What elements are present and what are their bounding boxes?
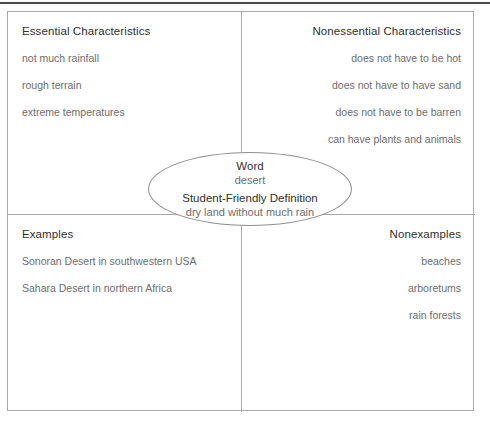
word-block: Word desert bbox=[235, 159, 266, 187]
center-ellipse-word-and-definition: Word desert Student-Friendly Definition … bbox=[148, 152, 352, 226]
word-label: Word bbox=[235, 159, 266, 173]
quadrant-examples: Examples Sonoran Desert in southwestern … bbox=[8, 215, 241, 412]
list-item: can have plants and animals bbox=[256, 132, 461, 146]
list-item: not much rainfall bbox=[22, 51, 227, 65]
list-item: does not have to have sand bbox=[256, 78, 461, 92]
list-item: rough terrain bbox=[22, 78, 227, 92]
top-horizontal-rule bbox=[0, 2, 490, 4]
definition-value: dry land without much rain bbox=[182, 205, 318, 219]
list-item: Sahara Desert in northern Africa bbox=[22, 281, 227, 295]
definition-label: Student-Friendly Definition bbox=[182, 191, 318, 205]
list-item: arboretums bbox=[256, 281, 461, 295]
list-item: beaches bbox=[256, 254, 461, 268]
quadrant-title-nonexamples: Nonexamples bbox=[256, 227, 461, 241]
quadrant-title-nonessential: Nonessential Characteristics bbox=[256, 24, 461, 38]
list-item: Sonoran Desert in southwestern USA bbox=[22, 254, 227, 268]
quadrant-nonexamples: Nonexamples beaches arboretums rain fore… bbox=[242, 215, 475, 412]
list-item: does not have to be hot bbox=[256, 51, 461, 65]
list-item: extreme temperatures bbox=[22, 105, 227, 119]
quadrant-title-essential: Essential Characteristics bbox=[22, 24, 227, 38]
quadrant-title-examples: Examples bbox=[22, 227, 227, 241]
list-item: does not have to be barren bbox=[256, 105, 461, 119]
word-value: desert bbox=[235, 173, 266, 187]
list-item: rain forests bbox=[256, 308, 461, 322]
definition-block: Student-Friendly Definition dry land wit… bbox=[182, 191, 318, 219]
